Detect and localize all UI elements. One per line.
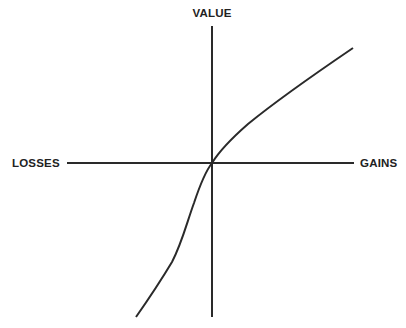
value-curve <box>136 48 353 317</box>
gains-label: GAINS <box>360 157 398 169</box>
y-axis-label: VALUE <box>192 7 231 19</box>
losses-label: LOSSES <box>12 157 60 169</box>
value-function-diagram: VALUE LOSSES GAINS <box>0 0 406 328</box>
axes <box>67 26 354 317</box>
